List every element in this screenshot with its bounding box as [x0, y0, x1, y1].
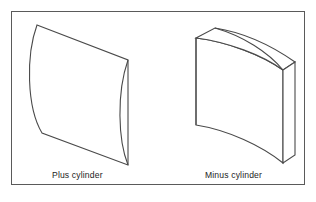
minus-cylinder-shape — [196, 28, 295, 163]
plus-cylinder-label: Plus cylinder — [52, 170, 103, 180]
plus-cylinder-body — [29, 25, 128, 165]
plus-cylinder-shape — [29, 25, 128, 165]
diagram-canvas — [0, 0, 316, 202]
minus-cylinder-right-end-face — [283, 62, 295, 163]
minus-cylinder-label: Minus cylinder — [205, 170, 262, 180]
figure-container: Plus cylinder Minus cylinder — [0, 0, 316, 202]
